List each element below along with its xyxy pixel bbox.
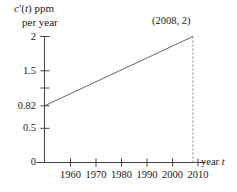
y-tick-label-1-5: 1.5 (2, 65, 36, 77)
chart-figure: c′(t) ppm per year 2 1.5 0.82 0.5 0 1960… (0, 0, 237, 192)
x-axis-title: year t (201, 156, 225, 168)
y-tick-label-0-82: 0.82 (2, 100, 36, 112)
data-series-line (45, 37, 193, 106)
x-axis-title-tvar: t (222, 156, 225, 167)
x-tick-label-2010: 2010 (181, 169, 215, 181)
point-annotation: (2008, 2) (152, 15, 191, 27)
x-axis-title-word: year (201, 156, 222, 167)
y-axis-title-line2: per year (14, 16, 58, 30)
y-tick-label-0: 0 (2, 156, 36, 168)
y-tick-label-2: 2 (2, 31, 36, 43)
y-tick-label-0-5: 0.5 (2, 122, 36, 134)
y-axis-title: c′(t) ppm per year (14, 2, 58, 29)
y-axis-title-units: ppm (32, 2, 54, 14)
